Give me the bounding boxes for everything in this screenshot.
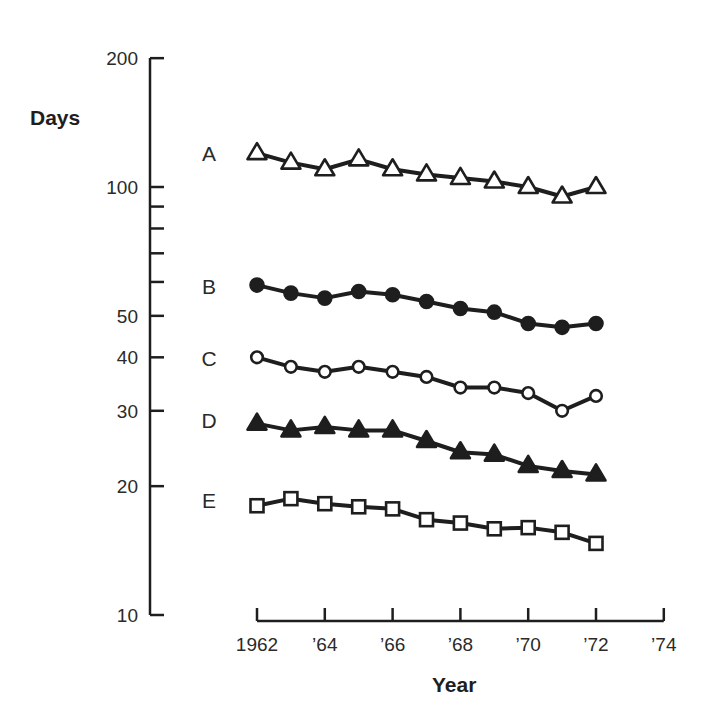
open-circle-marker [387, 366, 399, 378]
open-square-marker [386, 502, 399, 515]
open-triangle-marker [349, 149, 368, 165]
x-axis-title: Year [432, 673, 476, 696]
x-tick-label: ’68 [448, 634, 473, 655]
filled-circle-marker [352, 285, 365, 298]
open-square-marker [318, 497, 331, 510]
open-triangle-marker [587, 177, 606, 193]
filled-circle-marker [590, 317, 603, 330]
open-circle-marker [522, 387, 534, 399]
filled-circle-marker [556, 321, 569, 334]
open-circle-marker [421, 371, 433, 383]
x-tick-label: ’70 [516, 634, 541, 655]
open-square-marker [488, 522, 501, 535]
filled-circle-marker [251, 279, 264, 292]
open-circle-marker [319, 366, 331, 378]
x-axis: 1962’64’66’68’70’72’74 [236, 608, 677, 655]
series-labels: ABCDE [201, 142, 216, 512]
series-b [251, 279, 603, 334]
open-circle-marker [489, 382, 501, 394]
open-circle-marker [590, 390, 602, 402]
y-tick-label: 30 [117, 401, 138, 422]
y-tick-label: 100 [106, 177, 138, 198]
series-label-e: E [202, 489, 216, 512]
y-axis-title: Days [30, 106, 80, 129]
x-tick-label: ’74 [651, 634, 677, 655]
series-layer [248, 143, 606, 550]
y-tick-label: 40 [117, 347, 138, 368]
x-tick-label: ’72 [583, 634, 608, 655]
open-circle-marker [353, 361, 365, 373]
open-circle-marker [285, 361, 297, 373]
open-circle-marker [251, 352, 263, 364]
chart-canvas: 1020304050100200 1962’64’66’68’70’72’74 … [0, 0, 703, 727]
series-c [251, 352, 602, 417]
filled-circle-marker [318, 292, 331, 305]
open-square-marker [556, 526, 569, 539]
filled-circle-marker [454, 302, 467, 315]
filled-circle-marker [386, 288, 399, 301]
y-tick-label: 20 [117, 476, 138, 497]
open-square-marker [284, 492, 297, 505]
open-square-marker [352, 500, 365, 513]
x-tick-label: 1962 [236, 634, 278, 655]
filled-circle-marker [284, 287, 297, 300]
series-label-a: A [202, 142, 216, 165]
open-square-marker [420, 513, 433, 526]
series-e [251, 492, 603, 550]
series-a [248, 143, 606, 202]
open-square-marker [251, 499, 264, 512]
x-tick-label: ’66 [380, 634, 405, 655]
filled-triangle-marker [315, 417, 334, 433]
open-square-marker [590, 537, 603, 550]
open-square-marker [454, 517, 467, 530]
y-tick-label: 50 [117, 306, 138, 327]
open-circle-marker [455, 382, 467, 394]
y-tick-label: 200 [106, 48, 138, 69]
series-label-c: C [201, 347, 216, 370]
filled-circle-marker [522, 317, 535, 330]
series-label-d: D [201, 409, 216, 432]
series-d [248, 414, 606, 481]
filled-circle-marker [488, 306, 501, 319]
x-tick-label: ’64 [312, 634, 338, 655]
series-label-b: B [202, 275, 216, 298]
filled-triangle-marker [248, 414, 267, 430]
open-square-marker [522, 521, 535, 534]
y-axis: 1020304050100200 [106, 48, 164, 626]
open-circle-marker [556, 405, 568, 417]
filled-circle-marker [420, 295, 433, 308]
series-line [257, 357, 596, 410]
y-tick-label: 10 [117, 605, 138, 626]
open-triangle-marker [248, 143, 267, 159]
